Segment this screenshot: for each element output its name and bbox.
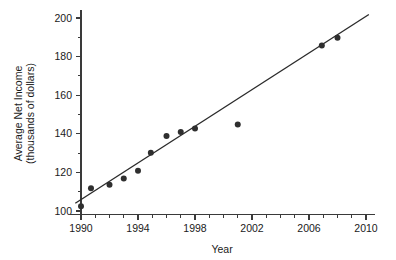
data-point [88,185,94,191]
x-tick-label: 1998 [183,222,207,234]
x-axis: 199019941998200220062010 [69,215,378,234]
data-point [164,133,170,139]
x-tick-label: 1990 [69,222,93,234]
data-point [135,168,141,174]
scatter-plot-figure: 100120140160180200 199019941998200220062… [0,0,396,260]
data-point [319,43,325,49]
regression-line [75,15,369,204]
y-axis: 100120140160180200 [54,10,81,216]
trend-line [75,15,369,204]
y-axis-title-line1: Average Net Income [12,66,24,162]
data-point [78,203,84,209]
y-tick-label: 160 [54,89,72,101]
y-tick-label: 100 [54,205,72,217]
x-tick-label: 1994 [126,222,150,234]
data-point [178,129,184,135]
y-tick-label: 120 [54,166,72,178]
y-tick-label: 200 [54,12,72,24]
data-point [235,122,241,128]
data-point [335,35,341,41]
data-point [148,150,154,156]
chart-canvas: 100120140160180200 199019941998200220062… [0,0,396,260]
y-tick-label: 140 [54,127,72,139]
x-tick-label: 2002 [240,222,264,234]
y-tick-label: 180 [54,50,72,62]
data-point [107,182,113,188]
data-points [78,35,341,209]
x-tick-label: 2006 [297,222,321,234]
x-axis-title: Year [211,243,233,255]
data-point [121,175,127,181]
y-axis-title-line2: (thousands of dollars) [24,63,36,164]
x-tick-label: 2010 [354,222,378,234]
data-point [192,125,198,131]
